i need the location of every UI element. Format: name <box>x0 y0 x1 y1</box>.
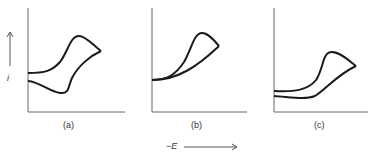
panel-b-axes <box>152 8 247 112</box>
panel-c-label: (c) <box>314 120 325 130</box>
panel-a-label: (a) <box>63 120 74 130</box>
panel-b-forward-scan <box>152 33 219 80</box>
panel-b-label: (b) <box>191 120 202 130</box>
y-axis-label: i <box>7 73 9 83</box>
panel-c <box>274 8 368 112</box>
panel-a-forward-scan <box>28 36 101 73</box>
panel-a-axes <box>28 8 125 112</box>
panel-a <box>28 8 125 112</box>
current-arrow-icon <box>7 32 13 66</box>
voltammogram-figure <box>0 0 371 158</box>
panel-b <box>152 8 247 112</box>
panel-b-reverse-scan <box>152 46 219 80</box>
panel-c-forward-scan <box>274 52 356 91</box>
potential-arrow-icon <box>184 144 237 150</box>
x-axis-label: −E <box>166 141 177 151</box>
